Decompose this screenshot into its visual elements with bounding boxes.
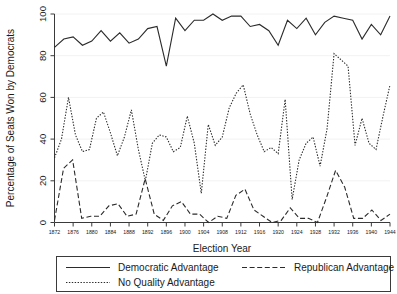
y-tick-label: 20 xyxy=(37,176,48,187)
x-axis-title: Election Year xyxy=(193,243,252,254)
y-tick-label: 0 xyxy=(37,220,48,225)
legend-label: Republican Advantage xyxy=(294,262,395,273)
x-tick-label: 1900 xyxy=(179,229,191,235)
x-tick-label: 1896 xyxy=(161,229,173,235)
x-tick-label: 1908 xyxy=(216,229,228,235)
x-tick-label: 1892 xyxy=(142,229,154,235)
x-tick-label: 1924 xyxy=(291,229,303,235)
x-tick-label: 1880 xyxy=(86,229,98,235)
x-tick-label: 1916 xyxy=(254,229,266,235)
x-tick-label: 1904 xyxy=(198,229,210,235)
x-tick-label: 1936 xyxy=(347,229,359,235)
y-tick-label: 100 xyxy=(37,6,48,22)
x-tick-label: 1940 xyxy=(366,229,378,235)
x-tick-label: 1912 xyxy=(235,229,247,235)
y-tick-label: 40 xyxy=(37,134,48,145)
legend-label: No Quality Advantage xyxy=(118,277,215,288)
y-tick-label: 80 xyxy=(37,50,48,61)
plot-background xyxy=(54,14,390,222)
chart-figure: 020406080100 187218761880188418881892189… xyxy=(0,0,397,294)
x-tick-label: 1876 xyxy=(67,229,79,235)
x-tick-label: 1872 xyxy=(49,229,61,235)
x-tick-label: 1944 xyxy=(384,229,396,235)
x-tick-label: 1920 xyxy=(272,229,284,235)
x-tick-label: 1928 xyxy=(310,229,322,235)
y-tick-label: 60 xyxy=(37,92,48,103)
x-tick-label: 1888 xyxy=(123,229,135,235)
legend-label: Democratic Advantage xyxy=(118,262,219,273)
y-axis-title: Percentage of Seats Won by Democrats xyxy=(5,29,16,207)
x-tick-label: 1884 xyxy=(105,229,117,235)
election-seats-line-chart: 020406080100 187218761880188418881892189… xyxy=(0,0,397,294)
x-tick-label: 1932 xyxy=(328,229,340,235)
